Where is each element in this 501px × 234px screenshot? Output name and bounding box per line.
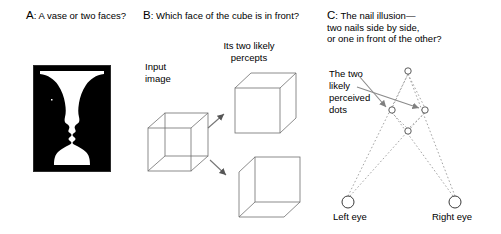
percept-front-upper-right <box>239 157 300 217</box>
dot-bottom <box>405 128 411 134</box>
vase-speck <box>51 99 53 101</box>
label-right-eye: Right eye <box>432 211 472 223</box>
dot-right <box>422 107 428 113</box>
percept1-edge-tr <box>280 73 296 88</box>
panel-c-caption-text: : The nail illusion— two nails side by s… <box>327 10 442 44</box>
percept1-front-square <box>235 88 280 133</box>
label-percepts: Its two likely percepts <box>212 40 286 64</box>
panel-c-caption: C: The nail illusion— two nails side by … <box>327 10 442 45</box>
right-eye-circle <box>449 196 461 208</box>
cube-edge-tr <box>191 113 208 128</box>
percept2-front-square <box>255 157 300 202</box>
arrow-to-top-percept <box>208 114 224 128</box>
edge-top-to-left <box>392 74 408 108</box>
dot-top <box>405 68 411 74</box>
cube-front-square <box>148 128 191 171</box>
arrow-to-bottom-percept <box>210 160 226 175</box>
percept-front-lower-left <box>235 73 296 133</box>
panel-a-caption: A: A vase or two faces? <box>26 10 126 22</box>
left-eye-circle <box>342 196 354 208</box>
cube-edge-bl <box>148 156 165 171</box>
percept2-edge-bl <box>239 202 255 217</box>
edge-right-to-bottom <box>408 113 425 129</box>
illusions-figure: A: A vase or two faces? B: Which face of… <box>0 0 501 234</box>
necker-cube-input <box>148 113 208 171</box>
panel-a-caption-text: : A vase or two faces? <box>34 10 126 21</box>
panel-a-letter: A <box>26 9 34 21</box>
rubin-vase-svg <box>34 66 110 171</box>
percept2-edge-br <box>284 202 300 217</box>
panel-b-letter: B <box>143 9 151 21</box>
panel-b-caption-text: : Which face of the cube is in front? <box>151 10 299 21</box>
right-eye-to-dot-top <box>408 74 455 196</box>
edge-left-to-bottom <box>392 113 408 129</box>
cube-edge-tl <box>148 113 165 128</box>
percept1-edge-br <box>280 118 296 133</box>
rubin-vase-illusion <box>33 65 111 172</box>
label-input-image: Input image <box>145 61 171 85</box>
right-eye-to-dot-left <box>392 112 453 196</box>
cube-back-square <box>165 113 208 156</box>
label-left-eye: Left eye <box>333 211 367 223</box>
percept1-edge-tl <box>235 73 251 88</box>
dot-left <box>389 107 395 113</box>
cube-edge-br <box>191 156 208 171</box>
panel-b-caption: B: Which face of the cube is in front? <box>143 10 299 22</box>
label-perceived-dots: The two likely perceived dots <box>329 68 370 116</box>
edge-top-to-right <box>408 74 425 108</box>
percept2-edge-tl <box>239 157 255 172</box>
left-eye-to-dot-right <box>350 112 425 196</box>
